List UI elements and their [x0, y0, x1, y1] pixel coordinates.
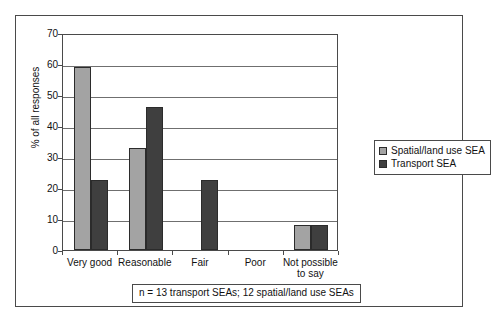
plot-area: [62, 34, 338, 251]
x-axis-tick-label: Poor: [228, 257, 283, 268]
bar: [146, 107, 163, 250]
legend-label: Transport SEA: [391, 157, 456, 170]
bar-group: [63, 35, 118, 250]
x-axis-tick-label: Not possibleto say: [283, 257, 338, 279]
y-axis-tick-mark: [58, 34, 62, 35]
y-axis-tick-mark: [58, 220, 62, 221]
legend-entry: Spatial/land use SEA: [379, 144, 485, 157]
x-axis-tick-label: Fair: [172, 257, 227, 268]
x-axis-tick-label-line: Fair: [172, 257, 227, 268]
bar: [74, 67, 91, 250]
x-axis-tick-label-line: Very good: [62, 257, 117, 268]
y-axis-tick-mark: [58, 158, 62, 159]
bar-group: [173, 35, 228, 250]
x-axis-tick-label: Reasonable: [117, 257, 172, 268]
bar: [294, 225, 311, 250]
y-axis-tick-label: 10: [32, 215, 58, 225]
x-axis-tick-mark: [62, 251, 63, 255]
legend-swatch-icon: [379, 147, 387, 155]
y-axis-tick-label: 20: [32, 184, 58, 194]
y-axis-tick-mark: [58, 189, 62, 190]
x-axis-tick-mark: [172, 251, 173, 255]
x-axis-tick-mark: [228, 251, 229, 255]
chart-footnote: n = 13 transport SEAs; 12 spatial/land u…: [132, 284, 361, 303]
x-axis-tick-label-line: Reasonable: [117, 257, 172, 268]
y-axis-tick-mark: [58, 65, 62, 66]
x-axis-tick-label-line: Not possible: [283, 257, 338, 268]
x-axis-tick-mark: [117, 251, 118, 255]
legend-entry: Transport SEA: [379, 157, 485, 170]
y-axis-tick-mark: [58, 96, 62, 97]
bar: [201, 180, 218, 250]
y-axis-title: % of all responses: [30, 43, 41, 173]
x-axis-tick-label-line: to say: [283, 268, 338, 279]
bar: [311, 225, 328, 250]
x-axis-tick-label-line: Poor: [228, 257, 283, 268]
bar-group: [118, 35, 173, 250]
x-axis-tick-labels: Very goodReasonableFairPoorNot possiblet…: [62, 257, 338, 287]
x-axis-tick-mark: [338, 251, 339, 255]
legend-swatch-icon: [379, 160, 387, 168]
figure-frame: 010203040506070 % of all responses Very …: [15, 15, 463, 307]
y-axis-tick-mark: [58, 127, 62, 128]
bar-group: [229, 35, 284, 250]
bar: [129, 148, 146, 250]
bar-group: [284, 35, 339, 250]
y-axis-tick-label: 70: [32, 29, 58, 39]
chart-legend: Spatial/land use SEATransport SEA: [374, 140, 491, 175]
legend-label: Spatial/land use SEA: [391, 144, 485, 157]
bar: [91, 180, 108, 250]
x-axis-tick-mark: [283, 251, 284, 255]
y-axis-tick-label: 0: [32, 246, 58, 256]
x-axis-tick-label: Very good: [62, 257, 117, 268]
